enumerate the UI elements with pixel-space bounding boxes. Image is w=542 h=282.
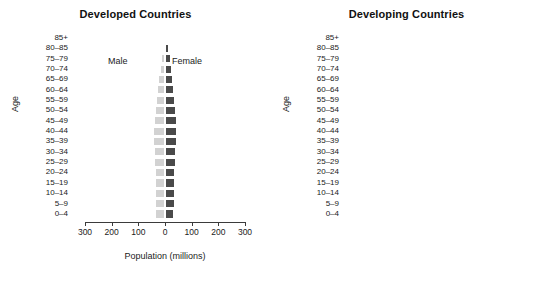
pyramid-row [85,209,245,219]
x-axis-tick-label: 300 [78,227,92,237]
bar-female [165,158,176,167]
age-group-label: 50–54 [22,105,68,115]
bar-male [158,75,165,84]
pyramid-row [85,178,245,188]
bar-female [165,116,177,125]
bar-male [154,147,165,156]
age-group-label: 75–79 [22,54,68,64]
age-group-label: 10–14 [293,188,339,198]
age-group-label: 15–19 [293,178,339,188]
age-group-label: 10–14 [22,188,68,198]
age-group-label: 30–34 [293,147,339,157]
bar-male [153,137,165,146]
age-group-label: 25–29 [293,157,339,167]
pyramid-row [85,136,245,146]
age-group-label: 60–64 [293,85,339,95]
y-axis-caption-developing: Age [281,96,291,112]
bar-female [165,85,174,94]
pyramid-row [85,74,245,84]
age-group-label: 45–49 [293,116,339,126]
bar-male [154,158,165,167]
age-group-label: 35–39 [293,136,339,146]
x-axis-tick-label: 0 [163,227,168,237]
bar-female [165,189,175,198]
age-group-label: 15–19 [22,178,68,188]
bar-male [155,106,165,115]
age-group-label: 30–34 [22,147,68,157]
series-label-male-developed: Male [108,56,128,66]
age-group-label: 75–79 [293,54,339,64]
age-group-label: 5–9 [293,199,339,209]
age-group-label: 45–49 [22,116,68,126]
bar-female [165,168,175,177]
age-group-label: 85+ [293,33,339,43]
age-group-label: 25–29 [22,157,68,167]
pyramid-row [85,147,245,157]
panel-developing-countries: Developing Countries Age 85+80–8575–7970… [271,0,542,282]
age-group-label: 0–4 [22,209,68,219]
age-group-label: 20–24 [293,167,339,177]
bar-male [155,178,165,187]
bar-female [165,44,169,53]
bar-female [165,199,175,208]
age-group-label: 60–64 [22,85,68,95]
bar-male [155,209,165,218]
age-group-label: 80–85 [293,43,339,53]
bar-male [156,96,165,105]
x-axis-tick-label: 200 [105,227,119,237]
age-group-label: 20–24 [22,167,68,177]
bar-female [165,178,175,187]
age-category-labels-developing: 85+80–8575–7970–7465–6960–6455–5950–5445… [293,33,339,219]
pyramid-row [85,126,245,136]
age-group-label: 5–9 [22,199,68,209]
x-axis-tick [165,222,166,226]
bar-female [165,34,167,43]
x-axis-tick [112,222,113,226]
series-label-female-developed: Female [172,56,202,66]
age-group-label: 85+ [22,33,68,43]
age-group-label: 40–44 [293,126,339,136]
pyramid-row [85,95,245,105]
x-axis-tick [245,222,246,226]
bar-female [165,127,177,136]
page-title-developed: Developed Countries [0,8,271,20]
x-axis-caption-developed: Population (millions) [85,251,245,261]
age-group-label: 65–69 [22,74,68,84]
x-axis-tick-label: 200 [211,227,225,237]
panel-developed-countries: Developed Countries Age 85+80–8575–7970–… [0,0,271,282]
bar-female [165,65,172,74]
bar-female [165,137,177,146]
page-title-developing: Developing Countries [271,8,542,20]
age-category-labels-developed: 85+80–8575–7970–7465–6960–6455–5950–5445… [22,33,68,219]
y-axis-caption-developed: Age [10,96,20,112]
bar-female [165,54,171,63]
bar-male [157,85,165,94]
bar-female [165,75,173,84]
figure-canvas: Developed Countries Age 85+80–8575–7970–… [0,0,542,282]
age-group-label: 80–85 [22,43,68,53]
bar-female [165,106,176,115]
age-group-label: 0–4 [293,209,339,219]
pyramid-row [85,188,245,198]
pyramid-row [85,33,245,43]
x-axis-tick [192,222,193,226]
pyramid-row [85,85,245,95]
pyramid-row [85,167,245,177]
pyramid-row [85,157,245,167]
pyramid-row [85,43,245,53]
age-group-label: 70–74 [293,64,339,74]
age-group-label: 65–69 [293,74,339,84]
age-group-label: 55–59 [293,95,339,105]
age-group-label: 35–39 [22,136,68,146]
bar-female [165,147,176,156]
age-group-label: 55–59 [22,95,68,105]
x-axis-tick-label: 100 [131,227,145,237]
x-axis-tick [85,222,86,226]
bar-male [155,199,165,208]
x-axis-tick-label: 300 [238,227,252,237]
x-axis-tick [218,222,219,226]
x-axis-tick-label: 100 [185,227,199,237]
bar-female [165,96,175,105]
bar-male [155,189,165,198]
age-group-label: 50–54 [293,105,339,115]
